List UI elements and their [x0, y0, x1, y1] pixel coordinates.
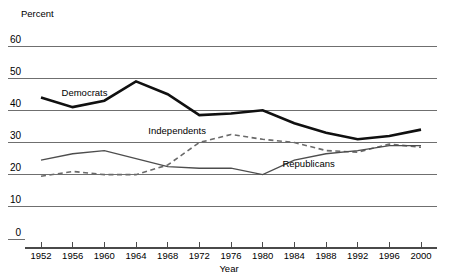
x-tick-label-1980: 1980 — [252, 250, 273, 261]
x-tick-label-1992: 1992 — [347, 250, 368, 261]
x-tick-label-1996: 1996 — [379, 250, 400, 261]
x-tick-label-1976: 1976 — [220, 250, 241, 261]
x-tick-label-1964: 1964 — [125, 250, 146, 261]
gridlines-group — [8, 46, 437, 239]
y-tick-label-50: 50 — [10, 66, 22, 77]
series-label-independents: Independents — [148, 125, 206, 136]
x-tick-label-1960: 1960 — [94, 250, 115, 261]
series-inline-labels: DemocratsIndependentsRepublicans — [62, 87, 335, 169]
chart-container: 0102030405060 19521956196019641968197219… — [0, 0, 460, 280]
series-label-republicans: Republicans — [282, 158, 335, 169]
x-tick-label-2000: 2000 — [410, 250, 431, 261]
series-line-republicans — [41, 146, 421, 175]
x-tick-label-1956: 1956 — [62, 250, 83, 261]
y-tick-label-30: 30 — [10, 130, 22, 141]
x-tick-label-1972: 1972 — [189, 250, 210, 261]
party-identification-line-chart: 0102030405060 19521956196019641968197219… — [0, 0, 460, 280]
x-tick-label-1984: 1984 — [284, 250, 305, 261]
x-tick-label-1968: 1968 — [157, 250, 178, 261]
y-tick-label-20: 20 — [10, 162, 22, 173]
y-tick-label-60: 60 — [10, 34, 22, 45]
y-tick-label-40: 40 — [10, 98, 22, 109]
x-axis-tick-labels: 1952195619601964196819721976198019841988… — [30, 250, 431, 261]
y-axis-title: Percent — [21, 8, 54, 19]
x-axis-tick-marks — [41, 242, 421, 248]
x-tick-label-1988: 1988 — [315, 250, 336, 261]
y-tick-label-10: 10 — [10, 194, 22, 205]
y-tick-label-0: 0 — [15, 227, 21, 238]
series-line-independents — [41, 134, 421, 176]
x-axis-title: Year — [219, 263, 238, 274]
series-label-democrats: Democrats — [62, 87, 108, 98]
x-tick-label-1952: 1952 — [30, 250, 51, 261]
